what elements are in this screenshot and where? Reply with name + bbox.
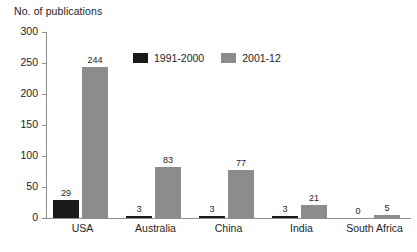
bar-item[interactable]: 29 [53, 32, 79, 218]
bar[interactable] [82, 67, 108, 218]
bar-value-label: 3 [272, 204, 298, 214]
y-axis-tick-label: 100 [20, 149, 38, 161]
x-axis-category-label: Australia [135, 222, 176, 234]
x-axis-line [46, 218, 411, 219]
x-axis-category-label: South Africa [346, 222, 403, 234]
x-axis-category-label: USA [72, 222, 94, 234]
publications-bar-chart: No. of publications 050100150200250300 2… [0, 0, 417, 252]
legend-label: 1991-2000 [154, 52, 204, 64]
y-axis-tick-label: 50 [26, 180, 38, 192]
bar[interactable] [374, 215, 400, 218]
legend-entry[interactable]: 1991-2000 [133, 52, 204, 64]
bar[interactable] [228, 170, 254, 218]
bar[interactable] [301, 205, 327, 218]
bar[interactable] [53, 200, 79, 218]
bar-item[interactable]: 244 [82, 32, 108, 218]
bar-item[interactable]: 21 [301, 32, 327, 218]
bar[interactable] [155, 167, 181, 218]
bar-group-bars: 05 [338, 32, 411, 218]
legend-swatch-black-icon [133, 53, 148, 63]
bar-value-label: 21 [301, 193, 327, 203]
bar[interactable] [126, 216, 152, 218]
bar-value-label: 3 [126, 204, 152, 214]
x-axis-category-label: India [290, 222, 313, 234]
bar-group: 05South Africa [338, 32, 411, 218]
bar-value-label: 0 [345, 206, 371, 216]
y-axis-tick-label: 0 [32, 211, 38, 223]
y-axis-tick-label: 200 [20, 87, 38, 99]
bar-value-label: 83 [155, 155, 181, 165]
legend-entry[interactable]: 2001-12 [221, 52, 281, 64]
y-axis-tick-mark [42, 218, 46, 219]
bar[interactable] [272, 216, 298, 218]
bar-item[interactable]: 5 [374, 32, 400, 218]
bar-item[interactable]: 0 [345, 32, 371, 218]
legend-label: 2001-12 [242, 52, 281, 64]
bar-value-label: 5 [374, 203, 400, 213]
chart-legend: 1991-20002001-12 [133, 52, 281, 64]
bar[interactable] [199, 216, 225, 218]
bar-value-label: 3 [199, 204, 225, 214]
bar-group: 29244USA [46, 32, 119, 218]
bar-value-label: 29 [53, 188, 79, 198]
legend-swatch-gray-icon [221, 53, 236, 63]
bar-group-bars: 29244 [46, 32, 119, 218]
bar-value-label: 77 [228, 158, 254, 168]
y-axis-tick-label: 150 [20, 118, 38, 130]
bar-value-label: 244 [82, 55, 108, 65]
x-axis-category-label: China [215, 222, 242, 234]
chart-axis-title: No. of publications [14, 5, 102, 17]
y-axis-tick-label: 250 [20, 56, 38, 68]
y-axis-tick-label: 300 [20, 25, 38, 37]
